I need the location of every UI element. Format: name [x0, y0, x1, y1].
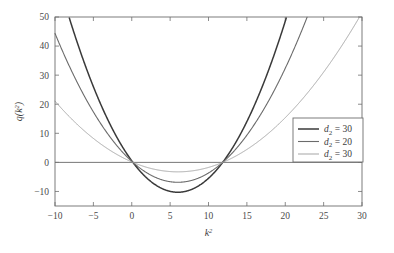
- x-tick-label: 0: [129, 211, 134, 221]
- series-curve: [55, 17, 307, 182]
- y-tick-label: 30: [40, 71, 50, 81]
- y-tick-label: 0: [44, 158, 49, 168]
- curve-group: [55, 17, 359, 192]
- series-curve: [69, 18, 286, 192]
- x-tick-label: 25: [319, 211, 329, 221]
- y-axis-labels: −1001020304050: [34, 12, 49, 196]
- axis-title-group: k2q(k2): [13, 101, 214, 238]
- y-axis-title: q(k2): [13, 101, 26, 121]
- x-tick-label: 5: [168, 211, 173, 221]
- chart-figure: −10−5051015202530 −1001020304050 d2= 30d…: [0, 0, 394, 253]
- x-axis-labels: −10−5051015202530: [48, 211, 367, 221]
- chart-legend: d2= 30d2= 20d2= 30: [293, 118, 363, 162]
- plot-canvas: −10−5051015202530 −1001020304050 d2= 30d…: [0, 0, 394, 253]
- y-tick-label: 20: [40, 100, 50, 110]
- y-tick-label: 40: [40, 41, 50, 51]
- x-tick-label: −5: [88, 211, 98, 221]
- x-axis-title: k2: [205, 227, 213, 239]
- x-tick-label: 30: [357, 211, 367, 221]
- y-tick-label: 50: [40, 12, 50, 22]
- y-tick-label: 10: [40, 129, 50, 139]
- x-tick-label: 20: [281, 211, 291, 221]
- x-tick-label: 15: [242, 211, 252, 221]
- x-tick-label: 10: [204, 211, 214, 221]
- x-tick-label: −10: [48, 211, 63, 221]
- y-tick-label: −10: [34, 187, 49, 197]
